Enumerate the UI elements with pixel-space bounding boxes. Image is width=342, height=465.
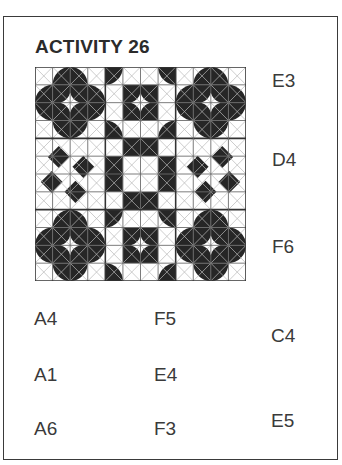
option-a1[interactable]: A1 (34, 364, 57, 386)
option-a6[interactable]: A6 (34, 418, 57, 440)
option-a4[interactable]: A4 (34, 308, 57, 330)
option-e4[interactable]: E4 (154, 364, 177, 386)
option-f6[interactable]: F6 (272, 236, 294, 258)
option-f5[interactable]: F5 (154, 308, 176, 330)
option-f3[interactable]: F3 (154, 418, 176, 440)
option-c4[interactable]: C4 (271, 325, 295, 347)
activity-title: ACTIVITY 26 (35, 36, 150, 58)
pattern-grid (35, 67, 246, 281)
option-d4[interactable]: D4 (272, 149, 296, 171)
option-e3[interactable]: E3 (272, 70, 295, 92)
option-e5[interactable]: E5 (271, 410, 294, 432)
